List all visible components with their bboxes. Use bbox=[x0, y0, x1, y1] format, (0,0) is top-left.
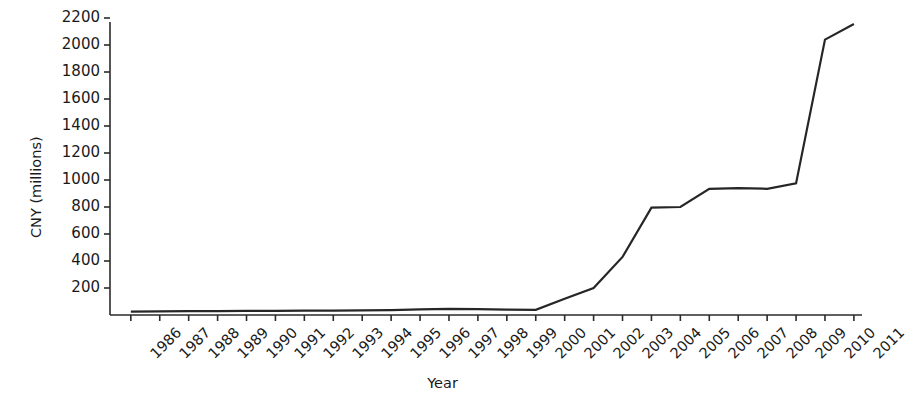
y-tick-label: 800 bbox=[36, 199, 100, 214]
data-series-group bbox=[131, 24, 854, 312]
y-tick-label: 1400 bbox=[36, 118, 100, 133]
y-tick-label: 2000 bbox=[36, 37, 100, 52]
y-axis-title: CNY (millions) bbox=[28, 136, 44, 238]
x-tick-marks bbox=[131, 315, 854, 321]
data-line-cny bbox=[131, 24, 854, 312]
y-tick-label: 1800 bbox=[36, 64, 100, 79]
y-tick-label: 1200 bbox=[36, 145, 100, 160]
y-tick-label: 600 bbox=[36, 226, 100, 241]
y-tick-label: 400 bbox=[36, 253, 100, 268]
y-tick-label: 1600 bbox=[36, 91, 100, 106]
axes-group bbox=[110, 22, 862, 315]
x-axis-title: Year bbox=[0, 375, 885, 391]
y-tick-label: 2200 bbox=[36, 10, 100, 25]
y-tick-label: 200 bbox=[36, 280, 100, 295]
y-tick-marks bbox=[104, 18, 110, 288]
y-tick-label: 1000 bbox=[36, 172, 100, 187]
